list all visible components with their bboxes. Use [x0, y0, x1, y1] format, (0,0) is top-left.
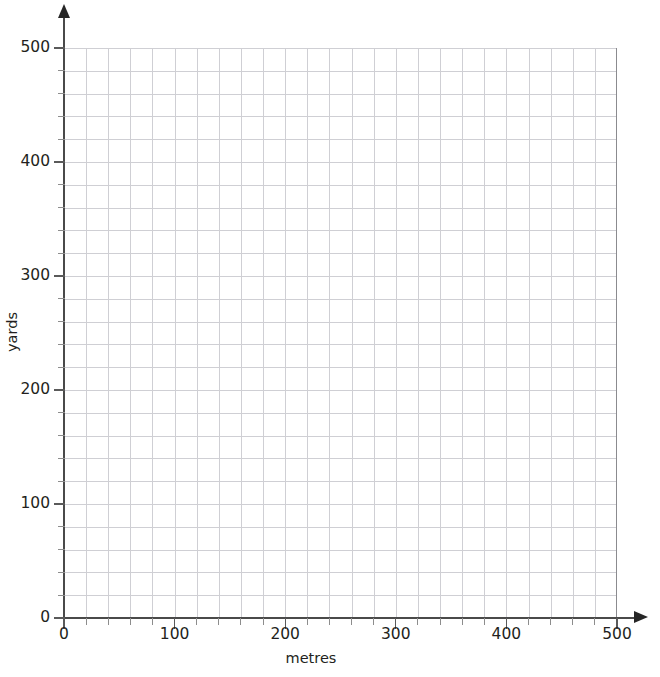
y-axis-minor-tick: [58, 70, 65, 71]
y-axis-title: yards: [4, 292, 20, 372]
x-axis-minor-tick: [417, 618, 418, 625]
y-axis-minor-tick: [58, 572, 65, 573]
y-axis-tick-label: 0: [0, 610, 50, 626]
x-axis-minor-tick: [373, 618, 374, 625]
y-axis-minor-tick: [58, 139, 65, 140]
x-axis-minor-tick: [572, 618, 573, 625]
y-axis-minor-tick: [58, 93, 65, 94]
x-axis-tick-label: 400: [466, 627, 546, 643]
x-axis-minor-tick: [240, 618, 241, 625]
y-axis-minor-tick: [58, 253, 65, 254]
x-axis-minor-tick: [329, 618, 330, 625]
y-axis-tick-label: 500: [0, 40, 50, 56]
y-axis-minor-tick: [58, 344, 65, 345]
y-axis-tick-label: 100: [0, 496, 50, 512]
plot-grid-area: [64, 48, 617, 618]
x-axis-minor-tick: [594, 618, 595, 625]
y-axis-minor-tick: [58, 458, 65, 459]
y-axis-minor-tick: [58, 230, 65, 231]
y-axis-minor-tick: [58, 549, 65, 550]
x-axis-minor-tick: [351, 618, 352, 625]
y-axis-minor-tick: [58, 367, 65, 368]
y-axis-tick: [54, 161, 65, 162]
y-axis-minor-tick: [58, 321, 65, 322]
y-axis-minor-tick: [58, 412, 65, 413]
x-axis-tick-label: 200: [245, 627, 325, 643]
arrow-up-icon: [58, 4, 70, 18]
x-axis-minor-tick: [263, 618, 264, 625]
y-axis-minor-tick: [58, 298, 65, 299]
x-axis-minor-tick: [218, 618, 219, 625]
x-axis-minor-tick: [307, 618, 308, 625]
x-axis-minor-tick: [152, 618, 153, 625]
y-axis-minor-tick: [58, 526, 65, 527]
arrow-right-icon: [634, 611, 648, 623]
x-axis-tick-label: 300: [356, 627, 436, 643]
y-axis-minor-tick: [58, 595, 65, 596]
x-axis-minor-tick: [462, 618, 463, 625]
y-axis-title-label: yards: [4, 312, 20, 352]
x-axis-minor-tick: [130, 618, 131, 625]
x-axis-minor-tick: [440, 618, 441, 625]
x-axis-minor-tick: [86, 618, 87, 625]
conversion-graph-figure: 01002003004005000100200300400500 metres …: [0, 0, 660, 677]
y-axis-tick: [54, 47, 65, 48]
y-axis-minor-tick: [58, 207, 65, 208]
x-axis-minor-tick: [528, 618, 529, 625]
x-axis-minor-tick: [196, 618, 197, 625]
y-axis-minor-tick: [58, 481, 65, 482]
y-axis-tick-label: 300: [0, 268, 50, 284]
y-axis-minor-tick: [58, 184, 65, 185]
y-axis-minor-tick: [58, 116, 65, 117]
y-axis-tick-label: 400: [0, 154, 50, 170]
y-axis-tick: [54, 503, 65, 504]
y-axis-minor-tick: [58, 435, 65, 436]
y-axis-line: [63, 16, 65, 619]
y-axis-tick: [54, 389, 65, 390]
x-axis-minor-tick: [108, 618, 109, 625]
y-axis-tick-label: 200: [0, 382, 50, 398]
x-axis-minor-tick: [550, 618, 551, 625]
x-axis-title: metres: [0, 650, 660, 666]
x-axis-tick-label: 500: [577, 627, 657, 643]
x-axis-title-label: metres: [286, 650, 337, 666]
x-axis-minor-tick: [484, 618, 485, 625]
x-axis-tick-label: 100: [135, 627, 215, 643]
x-axis-tick-label: 0: [24, 627, 104, 643]
y-axis-tick: [54, 275, 65, 276]
